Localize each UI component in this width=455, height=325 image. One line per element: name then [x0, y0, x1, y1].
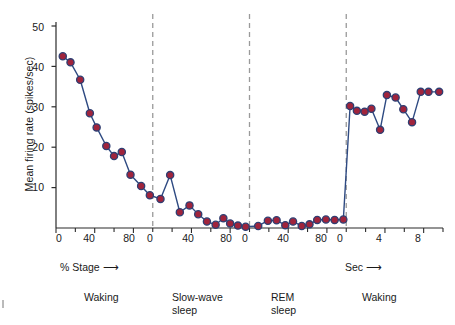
- data-point-marker: [436, 88, 443, 95]
- data-point-marker: [383, 91, 390, 98]
- data-point-marker: [322, 216, 329, 223]
- data-point-marker: [212, 221, 219, 228]
- data-point-marker: [298, 222, 305, 229]
- data-point-marker: [361, 108, 368, 115]
- data-point-marker: [368, 105, 375, 112]
- data-point-marker: [146, 192, 153, 199]
- data-point-marker: [195, 211, 202, 218]
- data-point-marker: [400, 106, 407, 113]
- data-point-marker: [353, 107, 360, 114]
- data-point-marker: [306, 221, 313, 228]
- data-point-marker: [93, 124, 100, 131]
- data-point-marker: [340, 216, 347, 223]
- data-point-marker: [273, 217, 280, 224]
- data-point-marker: [264, 217, 271, 224]
- data-point-marker: [220, 215, 227, 222]
- data-point-marker: [138, 182, 145, 189]
- figure-container: Mean firing rate (spikes/sec) 50 40 30 2…: [0, 0, 455, 325]
- data-point-marker: [242, 223, 249, 230]
- data-point-marker: [392, 94, 399, 101]
- data-point-marker: [234, 222, 241, 229]
- data-point-marker: [186, 202, 193, 209]
- data-point-marker: [331, 216, 338, 223]
- data-point-marker: [289, 218, 296, 225]
- data-point-marker: [110, 152, 117, 159]
- data-point-marker: [417, 88, 424, 95]
- data-point-marker: [314, 216, 321, 223]
- data-point-marker: [157, 195, 164, 202]
- data-point-marker: [176, 209, 183, 216]
- plot-svg: [0, 0, 455, 325]
- data-point-marker: [377, 126, 384, 133]
- data-point-marker: [203, 218, 210, 225]
- data-line: [63, 56, 439, 226]
- data-point-marker: [255, 222, 262, 229]
- data-point-marker: [408, 119, 415, 126]
- data-point-marker: [167, 171, 174, 178]
- data-point-marker: [59, 53, 66, 60]
- data-point-marker: [103, 142, 110, 149]
- data-point-marker: [282, 222, 289, 229]
- data-point-marker: [127, 171, 134, 178]
- data-point-marker: [227, 220, 234, 227]
- data-point-marker: [86, 110, 93, 117]
- data-point-marker: [118, 148, 125, 155]
- data-point-marker: [67, 59, 74, 66]
- data-point-marker: [347, 102, 354, 109]
- data-point-marker: [425, 88, 432, 95]
- data-point-marker: [77, 76, 84, 83]
